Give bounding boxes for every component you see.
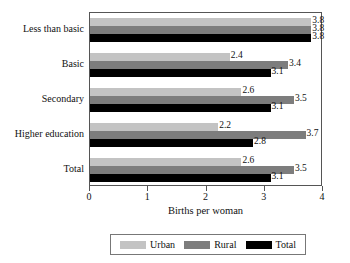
- category-label: Secondary: [42, 93, 84, 104]
- bar: [90, 26, 311, 34]
- legend-label-urban: Urban: [150, 240, 175, 250]
- bar-value-label: 3.7: [307, 129, 319, 138]
- x-tick-label: 0: [77, 191, 101, 202]
- bar: [90, 174, 271, 182]
- bar-value-label: 2.6: [242, 86, 254, 95]
- bar: [90, 123, 218, 131]
- bar: [90, 166, 294, 174]
- legend-label-rural: Rural: [214, 240, 236, 250]
- bar-value-label: 3.1: [272, 102, 284, 111]
- bar-value-label: 3.5: [295, 164, 307, 173]
- bar-value-label: 2.6: [242, 156, 254, 165]
- bar: [90, 88, 241, 96]
- bar: [90, 69, 271, 77]
- x-tick-label: 2: [194, 191, 218, 202]
- legend-item-total[interactable]: Total: [246, 240, 296, 250]
- legend-swatch-urban-icon: [120, 241, 146, 249]
- bar: [90, 61, 288, 69]
- bar-group-container: [90, 13, 321, 185]
- chart-legend: Urban Rural Total: [110, 234, 306, 255]
- bar: [90, 96, 294, 104]
- category-label: Basic: [62, 58, 84, 69]
- bar-value-label: 3.4: [289, 59, 301, 68]
- bar: [90, 104, 271, 112]
- bar-value-label: 3.1: [272, 172, 284, 181]
- plot-area: [89, 12, 322, 186]
- bar: [90, 158, 241, 166]
- bar: [90, 139, 253, 147]
- bar-value-label: 3.8: [312, 32, 324, 41]
- bar: [90, 34, 311, 42]
- x-tick-label: 4: [310, 191, 334, 202]
- bar: [90, 53, 230, 61]
- x-tick-label: 1: [135, 191, 159, 202]
- legend-label-total: Total: [276, 240, 296, 250]
- legend-swatch-rural-icon: [184, 241, 210, 249]
- x-axis-title: Births per woman: [89, 205, 322, 216]
- legend-item-urban[interactable]: Urban: [120, 240, 175, 250]
- bar-value-label: 2.4: [231, 51, 243, 60]
- category-label: Higher education: [15, 128, 84, 139]
- chart-figure: Less than basicBasicSecondaryHigher educ…: [0, 0, 350, 263]
- bar: [90, 131, 306, 139]
- bar-value-label: 2.8: [254, 137, 266, 146]
- bar-value-label: 2.2: [219, 121, 231, 130]
- bar-value-label: 3.1: [272, 67, 284, 76]
- bar: [90, 18, 311, 26]
- legend-swatch-total-icon: [246, 241, 272, 249]
- category-label: Total: [64, 163, 84, 174]
- legend-item-rural[interactable]: Rural: [184, 240, 236, 250]
- category-label: Less than basic: [23, 23, 84, 34]
- bar-value-label: 3.5: [295, 94, 307, 103]
- x-tick-label: 3: [252, 191, 276, 202]
